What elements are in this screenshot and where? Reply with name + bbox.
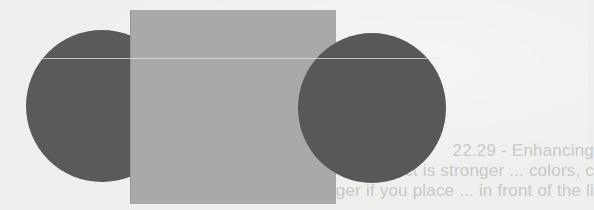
rectangle-edge	[130, 10, 131, 204]
scan-artifact-line	[40, 58, 440, 59]
right-dark-circle	[298, 33, 446, 183]
